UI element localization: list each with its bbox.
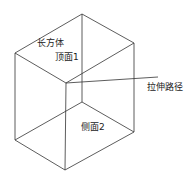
cuboid-diagram (0, 0, 193, 189)
edge-vertical-front (65, 83, 66, 170)
label-top-face: 顶面1 (55, 52, 79, 62)
edge-bottom-front-left (15, 140, 65, 170)
label-cuboid: 长方体 (37, 38, 64, 48)
extrude-path-line (66, 77, 158, 83)
edge-top-back-right (82, 14, 134, 43)
edge-bottom-back-left (15, 102, 82, 140)
edge-top-front-right (66, 43, 134, 83)
label-extrude-path: 拉伸路径 (147, 82, 183, 92)
label-side-face: 侧面2 (81, 122, 105, 132)
edge-bottom-front-right (65, 132, 134, 170)
